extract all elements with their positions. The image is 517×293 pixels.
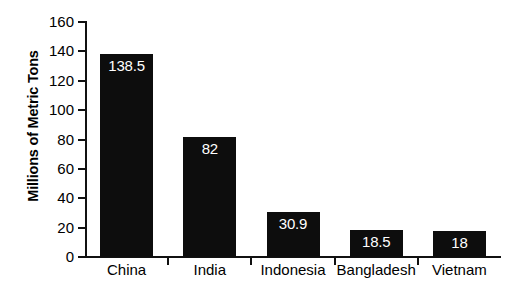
bar: 18 bbox=[433, 231, 486, 257]
y-tick-label-text: 140 bbox=[34, 43, 74, 58]
bar-value-label: 18.5 bbox=[350, 234, 403, 250]
y-tick-label: 100 bbox=[30, 102, 74, 117]
x-axis-category-label: China bbox=[85, 261, 168, 278]
y-tick-label: 40 bbox=[30, 190, 74, 205]
y-tick-label: 60 bbox=[30, 161, 74, 176]
y-tick-label-text: 0 bbox=[34, 249, 74, 264]
y-tick-label: 120 bbox=[30, 73, 74, 88]
y-tick-label: 80 bbox=[30, 132, 74, 147]
y-tick-label: 20 bbox=[30, 220, 74, 235]
bar: 138.5 bbox=[100, 54, 153, 257]
bar: 82 bbox=[183, 137, 236, 257]
x-axis-category-label: Indonesia bbox=[251, 261, 334, 278]
bar-value-label: 138.5 bbox=[100, 58, 153, 74]
y-tick-mark bbox=[78, 168, 86, 170]
y-tick-mark bbox=[78, 50, 86, 52]
y-tick-label-text: 40 bbox=[34, 190, 74, 205]
y-tick-mark bbox=[78, 21, 86, 23]
y-tick-label-text: 80 bbox=[34, 132, 74, 147]
y-axis-title: Millions of Metric Tons bbox=[25, 36, 41, 216]
y-tick-label: 0 bbox=[30, 249, 74, 264]
bar: 18.5 bbox=[350, 230, 403, 257]
y-tick-mark bbox=[78, 80, 86, 82]
y-tick-label-text: 100 bbox=[34, 102, 74, 117]
x-axis-category-label: Vietnam bbox=[418, 261, 501, 278]
y-tick-label-text: 60 bbox=[34, 161, 74, 176]
y-tick-mark bbox=[78, 227, 86, 229]
y-tick-label-text: 120 bbox=[34, 73, 74, 88]
bar-value-label: 82 bbox=[183, 141, 236, 157]
y-tick-mark bbox=[78, 109, 86, 111]
y-tick-mark bbox=[78, 256, 86, 258]
x-axis-category-label: India bbox=[168, 261, 251, 278]
bar-value-label: 30.9 bbox=[267, 216, 320, 232]
bar-value-label: 18 bbox=[433, 235, 486, 251]
bar-chart: Millions of Metric Tons 0204060801001201… bbox=[0, 0, 517, 293]
bar: 30.9 bbox=[267, 212, 320, 257]
y-tick-label-text: 160 bbox=[34, 14, 74, 29]
x-axis-category-label: Bangladesh bbox=[335, 261, 418, 278]
y-tick-mark bbox=[78, 197, 86, 199]
y-tick-mark bbox=[78, 139, 86, 141]
y-tick-label: 140 bbox=[30, 43, 74, 58]
y-tick-label-text: 20 bbox=[34, 220, 74, 235]
y-tick-label: 160 bbox=[30, 14, 74, 29]
